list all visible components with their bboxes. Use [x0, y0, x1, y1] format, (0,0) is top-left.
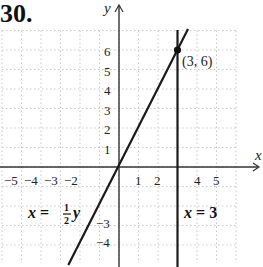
intersection-point	[174, 46, 181, 53]
equation-vertical: x=3	[183, 204, 217, 221]
graph-figure: 30. y x −5 −4 −3 −2 1 2 4 5 6 5 4 3 2 1 …	[0, 0, 263, 267]
y-tick-label: 1	[104, 142, 111, 157]
x-tick-label: 2	[154, 173, 161, 188]
y-tick-label: 2	[104, 122, 111, 137]
y-tick-label: 5	[104, 64, 111, 79]
eq-var: y	[71, 204, 81, 222]
y-tick-label: 6	[104, 44, 111, 59]
eq-numerator: 1	[64, 202, 69, 213]
point-label: (3, 6)	[182, 54, 213, 70]
y-tick-label: 3	[104, 103, 111, 118]
y-tick-label: −4	[96, 235, 110, 250]
x-tick-label: −5	[4, 173, 18, 188]
svg-text:x=: x=	[27, 204, 49, 221]
x-tick-label: −3	[44, 173, 58, 188]
x-tick-label: 1	[135, 173, 142, 188]
eq-sign: =	[196, 204, 205, 221]
problem-number: 30.	[0, 0, 33, 28]
x-tick-label: 5	[213, 173, 220, 188]
y-tick-label: 4	[104, 83, 111, 98]
x-tick-label: −4	[24, 173, 38, 188]
eq-sign: =	[40, 204, 49, 221]
eq-lhs: x	[27, 204, 36, 221]
svg-text:x=3: x=3	[183, 204, 217, 221]
x-axis-label: x	[254, 147, 262, 163]
eq-lhs: x	[183, 204, 192, 221]
y-tick-label: −3	[96, 216, 110, 231]
eq-rhs: 3	[209, 204, 217, 221]
x-tick-label: 4	[194, 173, 201, 188]
x-tick-label: −2	[64, 173, 78, 188]
y-axis-label: y	[102, 0, 111, 16]
eq-denominator: 2	[64, 215, 69, 226]
